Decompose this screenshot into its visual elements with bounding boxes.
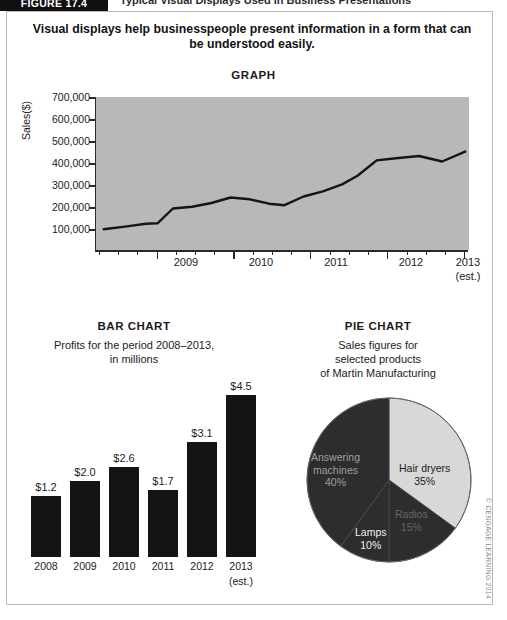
pie-chart-title: PIE CHART (268, 320, 488, 332)
bar-rect (226, 395, 256, 557)
bar-value-label: $4.5 (218, 380, 264, 392)
x-tick-minor (445, 250, 446, 255)
pie-label-text-line1: Answering (311, 451, 360, 463)
pie-label-text: Radios (395, 508, 428, 520)
pie-chart: Hair dryers 35% Radios 15% Lamps 10% Ans… (303, 396, 475, 564)
bar-value-label: $1.2 (23, 481, 69, 493)
x-tick-minor (407, 250, 408, 255)
bar-rect (109, 467, 139, 557)
bar-chart: $1.2 2008 $2.0 2009 $2.6 2010 $1.7 2011 … (0, 0, 260, 620)
x-tick-label: 2012 (381, 256, 441, 268)
bar-rect (187, 442, 217, 557)
x-tick-minor (368, 250, 369, 255)
x-tick-minor (349, 250, 350, 255)
pie-chart-subtitle-line1: Sales figures for (338, 339, 417, 351)
bar-value-label: $1.7 (140, 475, 186, 487)
pie-label-value: 40% (325, 476, 346, 488)
x-tick-minor (426, 250, 427, 255)
bar-value-label: $3.1 (179, 427, 225, 439)
pie-chart-subtitle-line3: of Martin Manufacturing (320, 367, 436, 379)
pie-label-value: 10% (360, 539, 381, 551)
x-tick-label-note: (est.) (438, 270, 498, 282)
x-tick-label: 2013 (438, 256, 498, 268)
bar-value-label: $2.0 (62, 466, 108, 478)
x-tick-minor (272, 250, 273, 255)
pie-label-text-line2: machines (313, 464, 358, 476)
bar-category-note: (est.) (218, 575, 264, 587)
pie-label-text: Lamps (355, 526, 387, 538)
pie-label-text: Hair dryers (399, 462, 450, 474)
pie-chart-subtitle: Sales figures for selected products of M… (258, 338, 498, 380)
bar-rect (148, 490, 178, 557)
x-tick-minor (291, 250, 292, 255)
x-tick-minor (330, 250, 331, 255)
pie-slice-label-hair-dryers: Hair dryers 35% (399, 462, 450, 487)
x-tick-label: 2011 (306, 256, 366, 268)
pie-chart-subtitle-line2: selected products (335, 353, 421, 365)
pie-slice-label-answering-machines: Answering machines 40% (311, 451, 360, 489)
bar-rect (31, 496, 61, 557)
pie-label-value: 35% (414, 475, 435, 487)
pie-slice-label-radios: Radios 15% (395, 508, 428, 533)
bar-category-label: 2013 (218, 560, 264, 572)
copyright-notice: © CENGAGE LEARNING 2014 (485, 498, 492, 599)
pie-slice-label-lamps: Lamps 10% (355, 526, 387, 551)
bar-rect (70, 481, 100, 557)
bar-value-label: $2.6 (101, 452, 147, 464)
pie-label-value: 15% (401, 521, 422, 533)
